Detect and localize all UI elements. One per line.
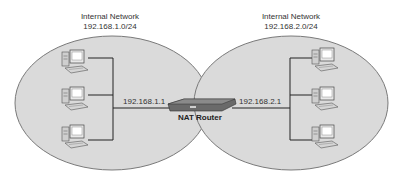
network-1-name: Internal Network — [50, 12, 170, 22]
gateway-ip-network-2: 192.168.2.1 — [239, 97, 281, 107]
network-2-title: Internal Network 192.168.2.0/24 — [231, 12, 351, 32]
gateway-ip-network-1: 192.168.1.1 — [123, 97, 165, 107]
router-label: NAT Router — [178, 113, 222, 123]
router-icon — [168, 99, 236, 111]
network-1-subnet: 192.168.1.0/24 — [50, 22, 170, 32]
network-2-name: Internal Network — [231, 12, 351, 22]
network-2-subnet: 192.168.2.0/24 — [231, 22, 351, 32]
network-1-title: Internal Network 192.168.1.0/24 — [50, 12, 170, 32]
